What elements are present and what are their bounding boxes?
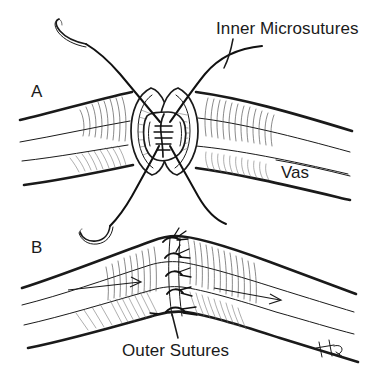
outer-suture-knots <box>150 228 197 315</box>
panel-letter-a: A <box>31 82 43 102</box>
medical-illustration-figure: Inner Microsutures Outer Sutures Vas A B <box>0 0 372 379</box>
label-outer-sutures: Outer Sutures <box>122 341 229 361</box>
curved-surgical-needle-upper-left <box>55 19 86 47</box>
lumen-opening <box>144 112 186 161</box>
label-inner-microsutures: Inner Microsutures <box>216 19 359 39</box>
vas-proximal-segment <box>20 92 133 185</box>
panel-letter-b: B <box>31 238 43 258</box>
anastomosis-seam <box>169 238 172 316</box>
vas-distal-segment <box>196 92 352 200</box>
anastomosis-seam-secondary <box>179 238 182 316</box>
label-vas: Vas <box>281 163 309 183</box>
illustration-canvas <box>0 0 372 379</box>
hatching-panel-b-left-lower <box>76 291 158 330</box>
curved-surgical-needle-lower-left <box>79 226 113 244</box>
leader-outer-sutures <box>172 314 178 338</box>
panel-a-group <box>20 19 352 244</box>
